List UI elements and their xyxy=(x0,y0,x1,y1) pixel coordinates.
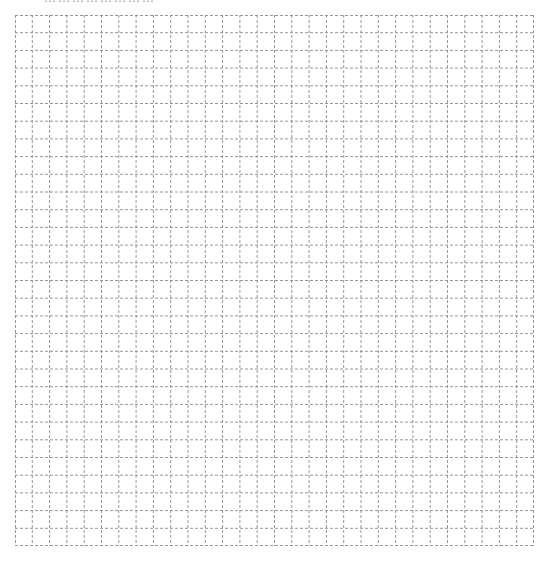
dashed-grid-paper xyxy=(15,15,534,546)
clipped-heading-text: …………………… xyxy=(44,0,156,3)
grid-lines xyxy=(15,15,534,546)
